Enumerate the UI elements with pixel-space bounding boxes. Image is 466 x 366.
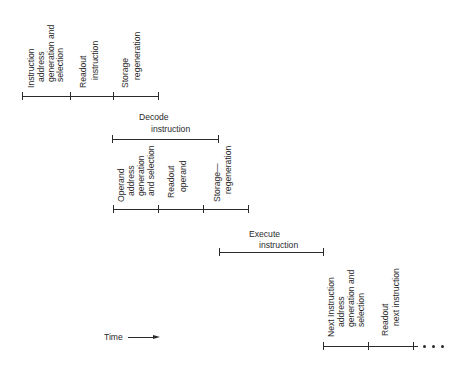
continuation-dot: [423, 345, 426, 348]
decode-timeline: [112, 139, 218, 140]
tick: [22, 92, 23, 100]
segment-label-next-address: address: [337, 296, 346, 327]
instruction-timing-diagram: Instruction address generation and selec…: [0, 0, 466, 366]
execute-label: Execute: [249, 229, 280, 239]
segment-label-operand-address: Operand: [117, 169, 126, 202]
tick: [248, 205, 249, 213]
operand-timeline: [113, 209, 248, 210]
segment-label-readout-next: next instruction: [392, 268, 401, 326]
segment-label-storage-regeneration: regeneration: [224, 146, 233, 194]
segment-label-readout-instruction: Readout: [79, 56, 88, 89]
tick: [218, 135, 219, 143]
time-label: Time: [104, 332, 123, 342]
segment-label-instruction-address: Instruction: [27, 48, 36, 88]
segment-label-next-address: Next Instruction: [327, 277, 336, 337]
segment-label-instruction-address: address: [37, 51, 46, 82]
tick: [219, 248, 220, 256]
continuation-dot: [441, 345, 444, 348]
decode-label: Decode: [139, 112, 169, 122]
tick: [368, 342, 369, 350]
tick: [112, 135, 113, 143]
segment-label-storage-regeneration: Storage—: [213, 163, 222, 202]
segment-label-storage-regeneration: Storage: [121, 58, 130, 88]
tick: [158, 205, 159, 213]
tick: [113, 205, 114, 213]
segment-label-readout-instruction: instruction: [91, 41, 100, 80]
tick: [113, 92, 114, 100]
tick: [413, 342, 414, 350]
segment-label-operand-address: generation: [137, 155, 146, 196]
tick: [158, 92, 159, 100]
segment-label-instruction-address: selection: [56, 48, 65, 82]
continuation-dot: [432, 345, 435, 348]
segment-label-next-address: selection: [357, 293, 366, 327]
next-timeline: [323, 346, 418, 347]
tick: [323, 342, 324, 350]
tick: [203, 205, 204, 213]
fetch-timeline: [22, 96, 158, 97]
execute-label: instruction: [259, 240, 298, 250]
segment-label-next-address: generation and: [347, 270, 356, 327]
execute-timeline: [219, 252, 323, 253]
segment-label-storage-regeneration: regeneration: [133, 32, 142, 80]
time-arrow-line: [128, 337, 155, 338]
time-arrow-head-icon: [153, 335, 160, 339]
tick: [70, 92, 71, 100]
segment-label-readout-next: Readout: [381, 304, 390, 337]
segment-label-operand-address: and selection: [147, 145, 156, 196]
decode-label: instruction: [151, 124, 190, 134]
segment-label-operand-address: address: [127, 165, 136, 196]
segment-label-readout-operand: operand: [179, 160, 188, 192]
segment-label-readout-operand: Readout: [167, 166, 176, 199]
tick: [323, 248, 324, 256]
